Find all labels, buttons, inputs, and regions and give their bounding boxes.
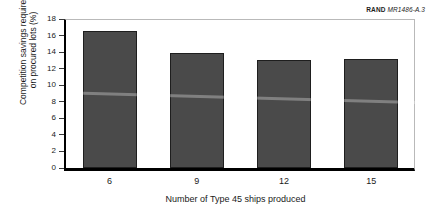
y-tick-label: 6 xyxy=(52,114,56,122)
rand-logotype: RAND xyxy=(366,6,385,13)
bar-12[interactable] xyxy=(257,60,311,168)
chart-page: { "source": { "rand_mark": "RAND", "doc_… xyxy=(0,0,431,214)
y-tick-label: 14 xyxy=(47,48,56,56)
x-axis-title: Number of Type 45 ships produced xyxy=(0,194,431,204)
y-tick-label: 16 xyxy=(47,32,56,40)
x-axis: 691215 xyxy=(66,176,415,186)
y-tick-label: 0 xyxy=(52,164,56,172)
x-tick-label-9: 9 xyxy=(170,176,224,186)
bar-slot-12 xyxy=(257,19,311,168)
y-tick-label: 10 xyxy=(47,81,56,89)
bar-9[interactable] xyxy=(170,53,224,168)
bars-container xyxy=(66,19,415,168)
y-tick-label: 2 xyxy=(52,147,56,155)
bar-6[interactable] xyxy=(83,31,137,168)
x-tick-label-15: 15 xyxy=(344,176,398,186)
bar-slot-6 xyxy=(83,19,137,168)
document-code: MR1486-A.3 xyxy=(388,6,426,13)
y-tick-label: 4 xyxy=(52,131,56,139)
bar-slot-15 xyxy=(344,19,398,168)
x-tick-label-6: 6 xyxy=(83,176,137,186)
x-tick-label-12: 12 xyxy=(257,176,311,186)
bar-slot-9 xyxy=(170,19,224,168)
y-tick-label: 18 xyxy=(47,15,56,23)
source-identifier: RANDMR1486-A.3 xyxy=(366,6,425,13)
y-axis: 181614121086420 xyxy=(0,19,64,171)
y-tick-label: 8 xyxy=(52,98,56,106)
y-tick-label: 12 xyxy=(47,65,56,73)
bar-15[interactable] xyxy=(344,59,398,168)
